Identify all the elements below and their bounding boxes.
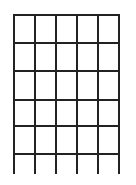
chord-diagram: [0, 0, 136, 185]
fret-lines: [14, 15, 119, 154]
string-lines: [14, 14, 119, 174]
